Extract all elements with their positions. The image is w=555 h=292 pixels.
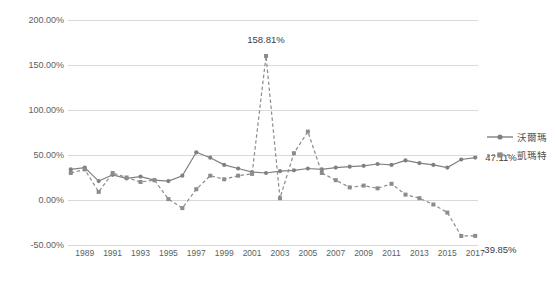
data-point-marker [152, 178, 156, 182]
data-point-marker [306, 130, 310, 134]
x-tick-label: 2001 [243, 248, 262, 258]
data-point-marker [292, 168, 296, 172]
data-point-marker [306, 166, 310, 170]
data-point-marker [362, 164, 366, 168]
data-point-marker [473, 234, 477, 238]
data-label: 158.81% [247, 34, 285, 45]
x-tick-label: 2015 [438, 248, 457, 258]
data-point-marker [236, 166, 240, 170]
data-point-marker [208, 174, 212, 178]
data-point-marker [111, 171, 115, 175]
data-point-marker [222, 177, 226, 181]
data-point-marker [389, 163, 393, 167]
data-point-marker [264, 54, 268, 58]
series-line [71, 56, 475, 236]
data-point-marker [125, 176, 129, 180]
x-tick-label: 2011 [382, 248, 400, 258]
plot-area: 1989199119931995199719992001200320052007… [68, 10, 478, 258]
x-tick-label: 2005 [298, 248, 317, 258]
x-tick-label: 1991 [103, 248, 122, 258]
y-tick-label: 200.00% [28, 15, 64, 25]
x-tick-label: 2009 [354, 248, 373, 258]
x-tick-label: 1999 [215, 248, 234, 258]
data-point-marker [375, 162, 379, 166]
x-tick-label: 2007 [326, 248, 345, 258]
data-point-marker [278, 169, 282, 173]
y-tick-label: 150.00% [28, 60, 64, 70]
chart-container: 200.00% 150.00% 100.00% 50.00% 0.00% -50… [0, 0, 555, 292]
data-point-marker [138, 175, 142, 179]
line-circle-marker-icon [487, 132, 513, 142]
data-point-marker [376, 186, 380, 190]
data-label: -39.85% [481, 244, 516, 255]
data-point-marker [222, 163, 226, 167]
data-point-marker [208, 156, 212, 160]
series-line [71, 152, 475, 181]
data-point-marker [97, 190, 101, 194]
data-point-marker [194, 150, 198, 154]
data-point-marker [69, 171, 73, 175]
data-point-marker [69, 167, 73, 171]
dashed-line-square-marker-icon [487, 150, 513, 160]
legend-label: 凱瑪特 [517, 148, 547, 162]
x-tick-label: 2003 [271, 248, 290, 258]
x-tick-label: 1989 [75, 248, 94, 258]
data-point-marker [180, 206, 184, 210]
y-tick-label: 100.00% [28, 105, 64, 115]
data-point-marker [250, 172, 254, 176]
data-point-marker [166, 197, 170, 201]
data-point-marker [362, 184, 366, 188]
data-point-marker [320, 171, 324, 175]
data-point-marker [236, 174, 240, 178]
data-point-marker [348, 165, 352, 169]
data-point-marker [390, 182, 394, 186]
data-point-marker [417, 196, 421, 200]
data-point-marker [278, 196, 282, 200]
data-point-marker [139, 180, 143, 184]
legend-item-kmart: 凱瑪特 [487, 146, 553, 164]
data-point-marker [180, 174, 184, 178]
data-point-marker [166, 179, 170, 183]
data-point-marker [431, 203, 435, 207]
legend-label: 沃爾瑪 [517, 130, 547, 144]
data-point-marker [348, 185, 352, 189]
y-axis-tick-labels: 200.00% 150.00% 100.00% 50.00% 0.00% -50… [0, 0, 64, 292]
x-tick-label: 1993 [131, 248, 150, 258]
data-point-marker [445, 211, 449, 215]
y-tick-label: 50.00% [33, 150, 64, 160]
data-point-marker [97, 179, 101, 183]
x-tick-label: 2013 [410, 248, 429, 258]
data-point-marker [334, 178, 338, 182]
legend: 沃爾瑪 凱瑪特 [487, 128, 553, 164]
data-point-marker [403, 193, 407, 197]
data-point-marker [403, 158, 407, 162]
data-point-marker [194, 187, 198, 191]
y-tick-label: -50.00% [30, 240, 64, 250]
x-tick-label: 1997 [187, 248, 206, 258]
data-point-marker [334, 166, 338, 170]
data-point-marker [473, 156, 477, 160]
data-point-marker [292, 151, 296, 155]
data-point-marker [431, 163, 435, 167]
series-lines [68, 10, 478, 258]
data-point-marker [264, 171, 268, 175]
x-tick-label: 1995 [159, 248, 178, 258]
legend-item-walmart: 沃爾瑪 [487, 128, 553, 146]
data-point-marker [459, 157, 463, 161]
y-tick-label: 0.00% [38, 195, 64, 205]
data-point-marker [445, 166, 449, 170]
data-point-marker [83, 167, 87, 171]
data-point-marker [459, 234, 463, 238]
data-point-marker [417, 161, 421, 165]
